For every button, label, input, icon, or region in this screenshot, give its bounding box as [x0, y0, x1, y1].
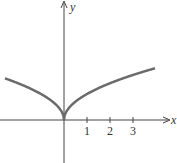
x-axis-label: x	[170, 113, 177, 127]
x-tick-label: 1	[84, 124, 90, 138]
y-axis-label: y	[69, 0, 76, 14]
graph: 123 y x	[0, 0, 177, 163]
curve	[5, 68, 155, 120]
x-tick-label: 2	[107, 124, 113, 138]
x-tick-label: 3	[130, 124, 136, 138]
